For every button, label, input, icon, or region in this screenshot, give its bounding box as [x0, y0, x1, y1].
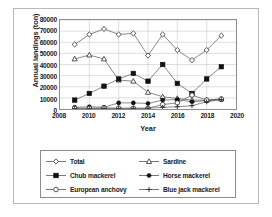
x-axis-tick-labels: 2008201020122014201620182020 [59, 112, 237, 124]
legend-item-label: Sardine [163, 158, 186, 165]
legend-item-european-anchovy[interactable]: European anchovy [45, 184, 138, 195]
x-tick-label: 2008 [52, 112, 66, 119]
figure-container: Annual landings (ton) 010000200003000040… [0, 0, 272, 217]
plot-svg [60, 20, 236, 109]
legend-row: Chub mackerelHorse mackerel [45, 168, 231, 182]
legend-item-blue-jack-mackerel[interactable]: Blue jack mackerel [138, 184, 231, 195]
legend-item-chub-mackerel[interactable]: Chub mackerel [45, 170, 138, 181]
legend-item-total[interactable]: Total [45, 156, 138, 167]
legend-item-label: Chub mackerel [70, 172, 115, 179]
legend-item-horse-mackerel[interactable]: Horse mackerel [138, 170, 231, 181]
y-tick-label: 80000 [40, 16, 57, 23]
legend-item-label: Total [70, 158, 85, 165]
plot-area [59, 19, 237, 110]
y-tick-label: 40000 [40, 61, 57, 68]
x-tick-label: 2018 [200, 112, 214, 119]
line-chart: Annual landings (ton) 010000200003000040… [13, 8, 259, 138]
y-tick-label: 20000 [40, 84, 57, 91]
x-tick-label: 2020 [230, 112, 244, 119]
legend-marker-icon [45, 170, 67, 181]
x-tick-label: 2016 [171, 112, 185, 119]
legend-item-label: Blue jack mackerel [163, 186, 220, 193]
legend-row: TotalSardine [45, 154, 231, 168]
legend-marker-icon [138, 184, 160, 195]
y-tick-label: 30000 [40, 72, 57, 79]
y-tick-label: 60000 [40, 38, 57, 45]
legend-marker-icon [45, 184, 67, 195]
legend-item-label: European anchovy [70, 186, 127, 193]
x-tick-label: 2010 [82, 112, 96, 119]
legend-marker-icon [138, 156, 160, 167]
y-tick-label: 50000 [40, 50, 57, 57]
y-tick-label: 10000 [40, 95, 57, 102]
x-tick-label: 2012 [111, 112, 125, 119]
legend-item-sardine[interactable]: Sardine [138, 156, 231, 167]
chart-legend: TotalSardineChub mackerelHorse mackerelE… [40, 150, 236, 198]
x-tick-label: 2014 [141, 112, 155, 119]
legend-marker-icon [45, 156, 67, 167]
legend-row: European anchovyBlue jack mackerel [45, 182, 231, 196]
gridlines [60, 20, 236, 109]
legend-marker-icon [138, 170, 160, 181]
x-axis-title: Year [59, 124, 237, 133]
legend-item-label: Horse mackerel [163, 172, 210, 179]
y-tick-label: 70000 [40, 27, 57, 34]
